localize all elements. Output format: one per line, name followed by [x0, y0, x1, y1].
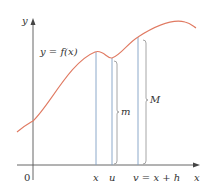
- bracket-label-M: M: [149, 94, 161, 105]
- x-axis: [17, 163, 200, 168]
- x-axis-arrow-icon: [193, 163, 200, 168]
- marker-label-v: v = x + h: [133, 172, 180, 183]
- origin-label: 0: [24, 172, 30, 183]
- y-axis: [31, 18, 36, 180]
- mean-value-diagram: y x 0 y = f(x) x u v = x + h m M: [0, 0, 212, 189]
- x-axis-label: x: [194, 172, 200, 183]
- function-curve: [17, 21, 196, 132]
- bracket-m: [114, 61, 119, 164]
- curve-label: y = f(x): [39, 46, 78, 57]
- marker-label-u: u: [109, 172, 115, 183]
- y-axis-label: y: [21, 15, 28, 26]
- bracket-label-m: m: [121, 106, 130, 117]
- bracket-M: [143, 40, 148, 164]
- y-axis-arrow-icon: [31, 18, 36, 25]
- marker-label-x: x: [93, 172, 99, 183]
